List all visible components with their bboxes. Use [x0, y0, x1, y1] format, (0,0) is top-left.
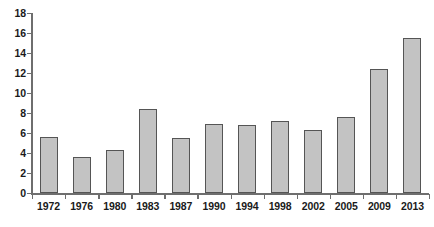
x-axis-tick-mark [231, 194, 232, 199]
y-axis-tick-label: 18 [0, 8, 26, 18]
x-axis-tick-mark [363, 194, 364, 199]
bar[interactable] [403, 38, 421, 193]
x-axis-tick-label: 1972 [32, 200, 65, 212]
y-axis-tick-label: 0 [0, 188, 26, 198]
x-axis-tick-label: 1976 [65, 200, 98, 212]
y-axis-tick-label: 6 [0, 128, 26, 138]
y-axis-tick-labels: 024681012141618 [0, 0, 26, 227]
x-axis-tick-labels: 1972197619801983198719901994199820022005… [32, 200, 429, 220]
x-axis-tick-label: 1987 [164, 200, 197, 212]
bar[interactable] [337, 117, 355, 193]
x-axis-tick-label: 1990 [197, 200, 230, 212]
x-axis-tick-label: 1983 [131, 200, 164, 212]
x-axis-tick-label: 1998 [264, 200, 297, 212]
x-axis-tick-label: 1994 [231, 200, 264, 212]
bar[interactable] [205, 124, 223, 193]
bar[interactable] [172, 138, 190, 193]
y-axis-tick-label: 16 [0, 28, 26, 38]
x-axis-tick-mark [131, 194, 132, 199]
bar-slot [271, 13, 289, 193]
x-axis-tick-label: 2013 [396, 200, 429, 212]
y-axis-tick-label: 12 [0, 68, 26, 78]
y-axis-tick-label: 10 [0, 88, 26, 98]
bar-slot [403, 13, 421, 193]
x-axis-tick-mark [429, 194, 430, 199]
x-axis-tick-mark [197, 194, 198, 199]
bar-slot [73, 13, 91, 193]
x-axis-tick-mark [297, 194, 298, 199]
x-axis-tick-mark [32, 194, 33, 199]
x-axis-tick-mark [396, 194, 397, 199]
bar[interactable] [139, 109, 157, 193]
bar-slot [205, 13, 223, 193]
bar[interactable] [271, 121, 289, 193]
plot-area [32, 13, 429, 193]
bar-slot [106, 13, 124, 193]
x-axis-tick-label: 2009 [363, 200, 396, 212]
y-axis-tick-label: 8 [0, 108, 26, 118]
x-axis-tick-label: 2002 [297, 200, 330, 212]
x-axis-tick-mark [98, 194, 99, 199]
bar-slot [139, 13, 157, 193]
y-axis-tick-label: 14 [0, 48, 26, 58]
bar-slot [370, 13, 388, 193]
bar[interactable] [304, 130, 322, 193]
bar-chart: 024681012141618 197219761980198319871990… [0, 0, 434, 227]
y-axis-tick-label: 4 [0, 148, 26, 158]
x-axis-tick-mark [164, 194, 165, 199]
bar-slot [238, 13, 256, 193]
y-axis-tick-label: 2 [0, 168, 26, 178]
bar[interactable] [73, 157, 91, 193]
bar[interactable] [370, 69, 388, 193]
bar-slot [337, 13, 355, 193]
bar[interactable] [238, 125, 256, 193]
x-axis-tick-mark [330, 194, 331, 199]
x-axis-tick-label: 2005 [330, 200, 363, 212]
bar-slot [304, 13, 322, 193]
bar-slot [172, 13, 190, 193]
bar-slot [40, 13, 58, 193]
x-axis-tick-mark [65, 194, 66, 199]
bar[interactable] [40, 137, 58, 193]
x-axis-tick-mark [264, 194, 265, 199]
x-axis-tick-label: 1980 [98, 200, 131, 212]
bar[interactable] [106, 150, 124, 193]
